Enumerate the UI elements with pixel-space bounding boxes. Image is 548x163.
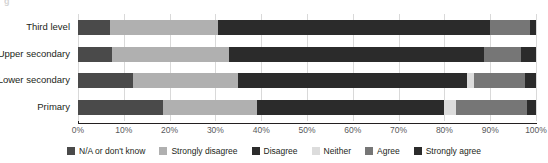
category-axis-labels: Third levelUpper secondaryLower secondar… [0,14,74,121]
x-axis-line [78,123,537,124]
tick-label-30: 30% [207,125,224,136]
tick-label-80: 80% [436,125,453,136]
category-label-upper-secondary: Upper secondary [0,49,70,59]
tick-label-0: 0% [72,125,84,136]
bar-segment-n-a-or-don-t-know[interactable] [78,73,133,88]
bar-segment-disagree[interactable] [229,47,484,62]
category-label-lower-secondary: Lower secondary [0,75,70,85]
category-label-primary: Primary [37,102,70,112]
legend-label: Strongly agree [426,147,481,156]
legend-item-disagree[interactable]: Disagree [252,147,298,156]
x-axis-tick-labels: 0%10%20%30%40%50%60%70%80%90%100% [78,125,537,137]
clipped-figure-label: g [4,0,64,7]
bar-segment-agree[interactable] [484,47,521,62]
gridline-100 [536,14,537,121]
tick-label-70: 70% [390,125,407,136]
bar-segment-n-a-or-don-t-know[interactable] [78,20,110,35]
legend-item-n-a-or-don-t-know[interactable]: N/A or don't know [67,147,145,156]
legend-item-neither[interactable]: Neither [312,147,351,156]
tick-label-60: 60% [344,125,361,136]
legend-item-strongly-disagree[interactable]: Strongly disagree [159,147,237,156]
tick-label-10: 10% [115,125,132,136]
legend-label: Strongly disagree [171,147,237,156]
legend-swatch-icon [252,147,260,155]
legend-swatch-icon [312,147,320,155]
bar-segment-n-a-or-don-t-know[interactable] [78,100,163,115]
bar-segment-disagree[interactable] [218,20,491,35]
bar-row [78,47,536,62]
tick-label-100: 100% [525,125,547,136]
bar-segment-agree[interactable] [474,73,524,88]
legend-label: Agree [377,147,400,156]
bar-segment-strongly-agree[interactable] [530,20,536,35]
chart-legend: N/A or don't knowStrongly disagreeDisagr… [0,144,548,158]
legend-swatch-icon [159,147,167,155]
bar-segment-strongly-agree[interactable] [525,73,536,88]
bar-segment-strongly-agree[interactable] [521,47,536,62]
tick-label-50: 50% [298,125,315,136]
legend-swatch-icon [67,147,75,155]
bar-segment-strongly-disagree[interactable] [110,20,218,35]
clipped-glyph: g [4,0,10,6]
bar-segment-n-a-or-don-t-know[interactable] [78,47,112,62]
tick-label-20: 20% [161,125,178,136]
bar-segment-disagree[interactable] [238,73,467,88]
legend-item-strongly-agree[interactable]: Strongly agree [414,147,481,156]
bar-segment-agree[interactable] [456,100,527,115]
legend-label: Disagree [264,147,298,156]
bar-rows [78,14,536,121]
tick-label-90: 90% [482,125,499,136]
legend-label: Neither [324,147,351,156]
plot-area [78,14,536,121]
bar-segment-strongly-agree[interactable] [527,100,536,115]
bar-row [78,100,536,115]
stacked-bar-chart: g Third levelUpper secondaryLower second… [0,0,548,163]
bar-segment-neither[interactable] [467,73,474,88]
tick-label-40: 40% [253,125,270,136]
bar-segment-disagree[interactable] [257,100,445,115]
bar-segment-agree[interactable] [490,20,530,35]
bar-row [78,73,536,88]
bar-segment-neither[interactable] [444,100,455,115]
bar-segment-strongly-disagree[interactable] [112,47,229,62]
bar-segment-strongly-disagree[interactable] [133,73,238,88]
legend-swatch-icon [414,147,422,155]
category-label-third-level: Third level [26,22,70,32]
legend-item-agree[interactable]: Agree [365,147,400,156]
legend-swatch-icon [365,147,373,155]
bar-row [78,20,536,35]
legend-label: N/A or don't know [79,147,145,156]
bar-segment-strongly-disagree[interactable] [163,100,257,115]
